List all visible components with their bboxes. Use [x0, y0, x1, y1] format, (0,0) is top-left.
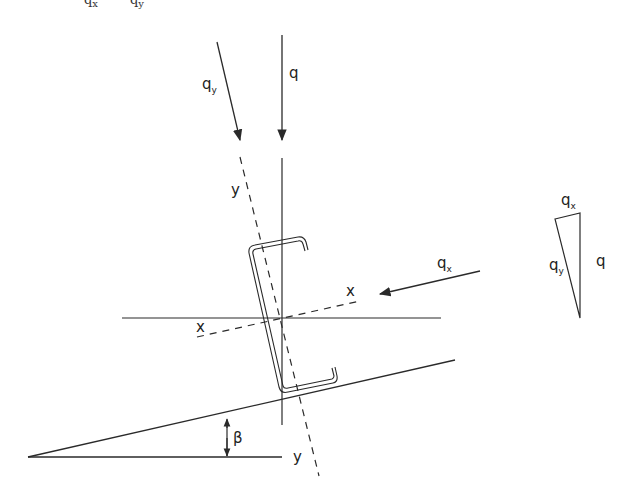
y-axis-label-bottom: y	[293, 448, 302, 466]
load-qx-arrow: qx	[380, 254, 480, 294]
svg-text:qy: qy	[130, 0, 144, 9]
principal-x-axis	[197, 301, 360, 337]
triangle-qx-label: qx	[561, 191, 577, 211]
triangle-qy-label: qy	[549, 256, 565, 276]
principal-y-axis	[240, 157, 319, 476]
top-clipped-caption: qx qy	[84, 0, 144, 9]
load-qy-arrow: qy	[202, 42, 240, 140]
x-axis-label-right: x	[346, 282, 355, 300]
load-q-arrow: q	[282, 35, 299, 140]
angle-beta-dimension: β	[227, 419, 243, 456]
load-qx-label: qx	[437, 254, 453, 274]
x-axis-label-left: x	[196, 318, 205, 336]
z-purlin-section	[249, 237, 337, 393]
force-triangle: qx qy q	[549, 191, 606, 318]
angle-beta-label: β	[233, 429, 243, 447]
load-q-label: q	[289, 64, 299, 82]
triangle-q-label: q	[596, 252, 606, 270]
svg-text:qx: qx	[84, 0, 98, 9]
diagram-canvas: qx qy q qy qx y y x x β	[0, 0, 640, 492]
y-axis-label-top: y	[231, 181, 240, 199]
load-qy-label: qy	[202, 75, 218, 95]
